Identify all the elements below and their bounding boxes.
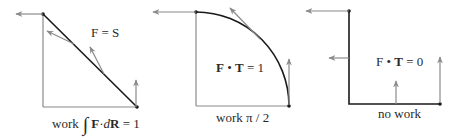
field-label: F • T = 0 [376,54,423,69]
work-caption: work π / 2 [216,110,269,125]
force-arrow-icon [230,8,260,39]
force-arrow-icon [47,31,74,44]
panel-rectangular-path: F • T = 0 no work [306,9,442,121]
diagonal-path [43,14,137,107]
panel-circular-path: F • T = 1 work π / 2 [153,8,291,125]
work-caption: no work [378,106,421,121]
field-label: F • T = 1 [216,60,264,75]
force-arrow-icon [90,47,104,74]
work-diagram: F = S work∫F·dR = 1 F • T = 1 work π / 2… [0,0,453,140]
arc-path [196,12,289,106]
field-label: F = S [91,25,119,40]
panel-straight-path: F = S work∫F·dR = 1 [16,12,140,137]
work-caption: work∫F·dR = 1 [52,113,140,137]
